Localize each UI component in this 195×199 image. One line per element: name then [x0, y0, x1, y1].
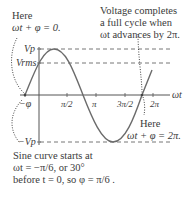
tick-3pi-over-2: 3π/2 — [117, 99, 133, 109]
neg-phi-label: −φ — [19, 99, 31, 109]
tick-pi-over-2: π/2 — [61, 99, 73, 109]
annotation-phase-line1: Sine curve starts at — [13, 150, 93, 161]
vp-label: Vp — [24, 44, 35, 54]
vrms-label: Vrms — [16, 58, 36, 68]
annotation-phase-line2: ωt = −π/6, or 30° — [13, 162, 85, 173]
tick-2pi: 2π — [150, 99, 159, 109]
neg-vp-label: −Vp — [18, 137, 36, 147]
tick-pi: π — [92, 99, 97, 109]
annotation-start-here: Here — [12, 10, 32, 21]
annotation-end-equation: ωt + φ = 2π. — [127, 130, 181, 141]
annotation-cycle-line2: a full cycle when — [100, 17, 172, 28]
annotation-phase-line3: before t = 0, so φ = π/6 . — [13, 174, 115, 185]
pointer-cycle-bottom — [143, 97, 145, 115]
annotation-start-equation: ωt + φ = 0. — [12, 22, 61, 33]
pointer-cycle-top — [138, 34, 142, 93]
annotation-cycle-line3: ωt advances by 2π. — [100, 29, 180, 40]
x-axis-label: ωt — [172, 90, 182, 100]
annotation-end-here: Here — [140, 118, 160, 129]
annotation-cycle-line1: Voltage completes — [100, 5, 177, 16]
